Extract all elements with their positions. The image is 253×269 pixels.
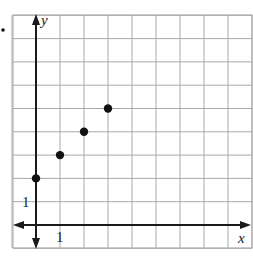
y-tick-label: 1: [22, 195, 30, 210]
data-point: [80, 128, 88, 136]
coordinate-plane: [0, 0, 253, 269]
x-axis-arrow-right-icon: [240, 221, 251, 229]
stray-dot: [1, 28, 5, 32]
y-axis-label: y: [41, 13, 48, 28]
grid-lines: [12, 15, 252, 248]
data-point: [56, 151, 64, 159]
x-tick-label: 1: [56, 230, 64, 245]
x-axis-arrow-left-icon: [13, 221, 24, 229]
y-axis-arrow-down-icon: [32, 238, 40, 249]
data-point: [32, 174, 40, 182]
data-point: [104, 104, 112, 112]
data-points: [32, 104, 112, 182]
x-axis-label: x: [238, 231, 245, 246]
